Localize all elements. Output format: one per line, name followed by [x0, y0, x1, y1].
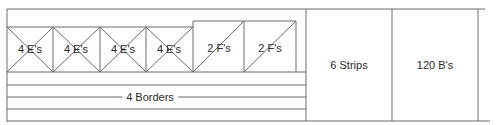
strips-label: 6 Strips — [330, 60, 367, 71]
e-block-label-4: 4 E's — [157, 44, 181, 55]
borders-label: 4 Borders — [122, 92, 178, 103]
e-block-label-2: 4 E's — [64, 44, 88, 55]
b-label: 120 B's — [417, 60, 453, 71]
f-block-label-2: 2 F's — [258, 43, 282, 54]
e-block-label-1: 4 E's — [18, 44, 42, 55]
e-block-label-3: 4 E's — [111, 44, 135, 55]
f-block-label-1: 2 F's — [207, 43, 231, 54]
